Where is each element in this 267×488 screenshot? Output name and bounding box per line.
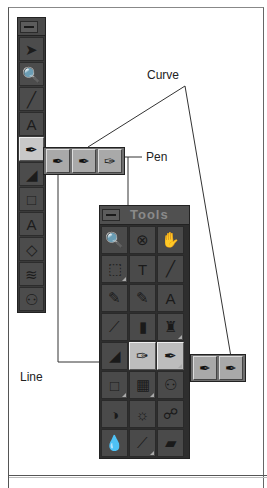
eyedropper-icon: ╱: [166, 260, 175, 278]
brush-icon: ✎: [108, 289, 121, 307]
pen-nib-icon: ✑: [104, 153, 116, 169]
tool-button[interactable]: ✎: [129, 284, 156, 312]
curve-tool-icon: ✒: [225, 360, 237, 376]
hand-icon: ✋: [161, 231, 180, 249]
tool-button[interactable]: □: [19, 187, 44, 211]
curve-tool-flyout: ✒✒: [190, 354, 246, 382]
paint-bucket-icon: ◇: [26, 242, 38, 257]
vertical-toolbox-titlebar[interactable]: [18, 18, 45, 36]
text-T-icon: T: [138, 261, 147, 278]
stamp-icon: ♜: [164, 318, 177, 336]
selection-arrow-icon: ➤: [25, 42, 38, 57]
tools-palette-titlebar[interactable]: Tools: [100, 206, 189, 225]
tool-button[interactable]: ⊗: [129, 226, 156, 254]
tool-button[interactable]: □: [101, 371, 128, 399]
pen-tool-icon: ✒: [25, 142, 38, 157]
tool-button[interactable]: ⚇: [19, 287, 44, 311]
eraser-icon: ▰: [165, 434, 177, 452]
tool-button[interactable]: A: [19, 112, 44, 136]
brush-icon: ◢: [26, 167, 38, 182]
minimize-icon[interactable]: [20, 21, 38, 33]
pen-tool-flyout: ✒✒✑: [43, 147, 125, 175]
tool-button[interactable]: A: [157, 284, 184, 312]
tool-button[interactable]: ◢: [101, 342, 128, 370]
tool-button[interactable]: ╱: [19, 87, 44, 111]
vertical-toolbox: ➤🔍╱A✒◢□A◇≋⚇: [17, 17, 46, 313]
airbrush-icon: ⟋: [109, 318, 120, 336]
marquee-select-icon: ⬚: [108, 260, 122, 278]
tool-button[interactable]: ✒: [19, 137, 44, 161]
tool-button[interactable]: ✎: [101, 284, 128, 312]
hatched-circle-icon: ⊗: [136, 231, 149, 249]
tool-button[interactable]: ◇: [19, 237, 44, 261]
line-callout-label: Line: [20, 370, 43, 384]
tool-button[interactable]: ✑: [129, 342, 156, 370]
tool-button[interactable]: ☍: [157, 400, 184, 428]
rectangle-icon: □: [110, 377, 119, 394]
tool-button[interactable]: ⟋: [101, 313, 128, 341]
filled-rectangle-icon: ▦: [136, 376, 150, 394]
binoculars-icon: ☍: [163, 405, 178, 423]
tool-button[interactable]: ⟋: [129, 429, 156, 457]
curve-callout-label: Curve: [147, 68, 179, 82]
minimize-icon[interactable]: [102, 209, 120, 221]
tool-button[interactable]: ✒: [219, 356, 243, 380]
tool-button[interactable]: ◑: [101, 400, 128, 428]
tool-button[interactable]: T: [129, 255, 156, 283]
tool-button[interactable]: ⚇: [157, 371, 184, 399]
tool-button[interactable]: A: [19, 212, 44, 236]
tool-button[interactable]: ✑: [98, 149, 122, 173]
sun-icon: ☼: [136, 406, 150, 423]
zoom-magnifier-icon: 🔍: [105, 231, 124, 249]
tool-button[interactable]: ▰: [157, 429, 184, 457]
type-A-icon: A: [26, 217, 36, 232]
gradient-brush-icon: ≋: [25, 267, 38, 282]
tool-button[interactable]: ≋: [19, 262, 44, 286]
tool-button[interactable]: ▮: [129, 313, 156, 341]
tools-palette-title: Tools: [130, 207, 169, 222]
tool-button[interactable]: ✒: [157, 342, 184, 370]
curve-tool-icon: ✒: [78, 153, 90, 169]
tool-button[interactable]: ♜: [157, 313, 184, 341]
tool-button[interactable]: ╱: [157, 255, 184, 283]
tool-button[interactable]: ➤: [19, 37, 44, 61]
text-tool-icon: A: [165, 290, 175, 307]
tool-button[interactable]: ◢: [19, 162, 44, 186]
tool-button[interactable]: ✒: [72, 149, 96, 173]
people-icon: ⚇: [164, 376, 177, 394]
tool-button[interactable]: ▦: [129, 371, 156, 399]
eyedropper-icon: ╱: [27, 92, 36, 107]
people-icon: ⚇: [25, 292, 38, 307]
line-tool-icon: ✒: [199, 360, 211, 376]
zoom-magnifier-icon: 🔍: [22, 67, 41, 82]
pen-callout-label: Pen: [146, 150, 167, 164]
tool-button[interactable]: ☼: [129, 400, 156, 428]
tools-grid: 🔍⊗✋⬚T╱✎✎A⟋▮♜◢✑✒□▦⚇◑☼☍💧⟋▰: [100, 225, 189, 458]
curve-pen-icon: ✒: [164, 347, 177, 365]
tool-button[interactable]: ✒: [46, 149, 70, 173]
tool-button[interactable]: 💧: [101, 429, 128, 457]
marker-icon: ✎: [136, 289, 149, 307]
tool-button[interactable]: ✋: [157, 226, 184, 254]
rectangle-icon: □: [27, 192, 36, 207]
tool-button[interactable]: 🔍: [101, 226, 128, 254]
tool-button[interactable]: 🔍: [19, 62, 44, 86]
tool-button[interactable]: ⬚: [101, 255, 128, 283]
spray-can-icon: ▮: [139, 318, 147, 336]
pen-nib-icon: ✑: [136, 347, 149, 365]
text-tool-icon: A: [26, 117, 36, 132]
line-tool-icon: ✒: [52, 153, 64, 169]
calligraphy-icon: ◢: [109, 347, 121, 365]
tools-palette: Tools 🔍⊗✋⬚T╱✎✎A⟋▮♜◢✑✒□▦⚇◑☼☍💧⟋▰: [99, 205, 190, 459]
smudge-brush-icon: ⟋: [137, 434, 148, 452]
contrast-circle-icon: ◑: [110, 406, 119, 423]
droplet-icon: 💧: [105, 434, 124, 452]
tool-button[interactable]: ✒: [193, 356, 217, 380]
